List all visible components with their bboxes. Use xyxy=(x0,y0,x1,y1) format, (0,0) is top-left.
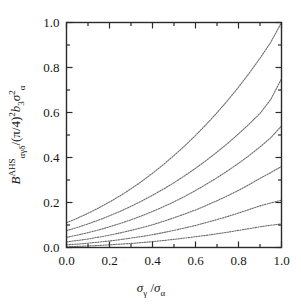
y-title-divider: /(π/4) xyxy=(8,117,23,146)
x-tick-label: 0.2 xyxy=(101,253,117,268)
y-title-B: B xyxy=(8,177,23,185)
x-tick-label: 0.0 xyxy=(58,253,74,268)
y-tick-label: 0.2 xyxy=(43,195,59,210)
x-title-sub-alpha: α xyxy=(160,288,165,298)
y-tick-label: 0.8 xyxy=(43,60,59,75)
x-tick-label: 0.6 xyxy=(187,253,204,268)
figure-panel: 0.00.20.40.60.81.0 0.00.20.40.60.81.0 σγ… xyxy=(0,0,301,308)
y-title-B-sup: AHS xyxy=(7,159,17,177)
y-tick-label: 0.4 xyxy=(43,150,60,165)
y-title-sigma-sub: α xyxy=(17,85,27,90)
y-title-B-sub: αγδ xyxy=(17,146,27,159)
x-tick-label: 1.0 xyxy=(273,253,289,268)
x-tick-label: 0.8 xyxy=(230,253,246,268)
y-tick-label: 0.6 xyxy=(43,105,60,120)
y-tick-label: 1.0 xyxy=(43,15,59,30)
x-tick-label: 0.4 xyxy=(144,253,161,268)
y-title-sigma-sup: 2 xyxy=(7,90,17,95)
chart-canvas: 0.00.20.40.60.81.0 0.00.20.40.60.81.0 σγ… xyxy=(0,0,301,308)
y-tick-label: 0.0 xyxy=(43,240,59,255)
